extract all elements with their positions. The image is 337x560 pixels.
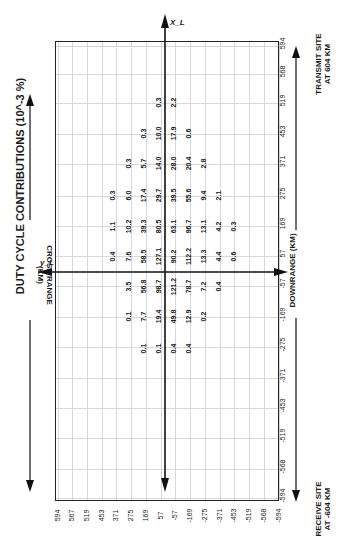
downrange-tick: -519 [279, 424, 286, 448]
data-value: 14.0 [155, 150, 162, 178]
data-value: 0.4 [170, 335, 177, 363]
data-value: 56.8 [140, 273, 147, 301]
data-value: 20.4 [185, 150, 192, 178]
data-value: 7.7 [140, 303, 147, 331]
data-value: 63.1 [170, 213, 177, 241]
crossrange-tick: 519 [83, 504, 90, 528]
data-value: 127.1 [155, 243, 162, 271]
data-value: 90.2 [170, 243, 177, 271]
crossrange-tick: -594 [275, 504, 282, 528]
data-value: 4.4 [215, 243, 222, 271]
downrange-tick: 371 [279, 150, 286, 174]
data-value: 39.5 [170, 182, 177, 210]
data-value: 7.6 [125, 243, 132, 271]
data-value: 0.3 [109, 182, 116, 210]
downrange-tick: 594 [279, 32, 286, 56]
data-value: 0.1 [155, 335, 162, 363]
transmit-site-label: TRANSMIT SITE AT 604 KM [314, 19, 332, 109]
crossrange-tick: 453 [98, 504, 105, 528]
downrange-tick: -453 [279, 394, 286, 418]
data-value: 0.6 [230, 243, 237, 271]
data-value: 12.9 [185, 303, 192, 331]
data-value: 0.1 [125, 303, 132, 331]
data-value: 19.4 [155, 303, 162, 331]
downrange-tick: 275 [279, 182, 286, 206]
data-value: 13.3 [200, 243, 207, 271]
crossrange-tick: 57 [157, 504, 164, 528]
data-value: 49.8 [170, 303, 177, 331]
data-value: 2.1 [215, 182, 222, 210]
downrange-tick: -275 [279, 333, 286, 357]
receive-line1: RECEIVE SITE [314, 464, 323, 554]
data-value: 98.7 [155, 273, 162, 301]
data-value: 17.9 [170, 120, 177, 148]
crossrange-tick: 169 [142, 504, 149, 528]
data-value: 80.5 [155, 213, 162, 241]
downrange-tick: 57 [279, 242, 286, 266]
data-value: 0.3 [230, 213, 237, 241]
data-value: 10.2 [125, 213, 132, 241]
data-value: 13.1 [200, 213, 207, 241]
data-value: 17.4 [140, 182, 147, 210]
data-value: 78.7 [185, 273, 192, 301]
crossrange-label: CROSS RANGE (KM) [36, 240, 54, 310]
crossrange-tick: -453 [230, 504, 237, 528]
downrange-tick: 453 [279, 120, 286, 144]
data-value: 28.0 [170, 150, 177, 178]
crossrange-tick: 371 [112, 504, 119, 528]
transmit-line2: AT 604 KM [323, 19, 332, 109]
downrange-tick: -169 [279, 303, 286, 327]
data-value: 2.2 [170, 89, 177, 117]
data-value: 4.2 [215, 213, 222, 241]
downrange-tick: -371 [279, 364, 286, 388]
receive-line2: AT -604 KM [323, 464, 332, 554]
data-value: 96.7 [185, 213, 192, 241]
data-value: 0.6 [185, 120, 192, 148]
data-value: 1.1 [109, 213, 116, 241]
crossrange-tick: -371 [216, 504, 223, 528]
crossrange-tick: 594 [54, 504, 61, 528]
downrange-tick: -568 [279, 455, 286, 479]
data-value: 10.0 [155, 120, 162, 148]
data-value: 0.3 [140, 120, 147, 148]
data-value: 9.4 [200, 182, 207, 210]
downrange-tick: 169 [279, 212, 286, 236]
crossrange-tick: 275 [127, 504, 134, 528]
transmit-line1: TRANSMIT SITE [314, 19, 323, 109]
downrange-tick: 519 [279, 89, 286, 113]
crossrange-tick: -57 [171, 504, 178, 528]
crossrange-tick: -169 [186, 504, 193, 528]
data-value: 0.4 [185, 335, 192, 363]
data-value: 121.2 [170, 273, 177, 301]
x-axis-label: X_L [170, 18, 185, 27]
downrange-label: DOWNRANGE (KM) [288, 231, 297, 311]
data-value: 7.2 [200, 273, 207, 301]
downrange-tick: 568 [279, 60, 286, 84]
data-value: 58.5 [140, 243, 147, 271]
data-value: 39.3 [140, 213, 147, 241]
downrange-tick: -57 [279, 272, 286, 296]
receive-site-label: RECEIVE SITE AT -604 KM [314, 464, 332, 554]
data-value: 0.3 [125, 150, 132, 178]
data-value: 29.7 [155, 182, 162, 210]
data-value: 0.2 [200, 303, 207, 331]
crossrange-tick: -519 [245, 504, 252, 528]
crossrange-tick: 567 [68, 504, 75, 528]
data-value: 55.6 [185, 182, 192, 210]
data-value: 0.3 [155, 89, 162, 117]
data-value: 0.4 [215, 273, 222, 301]
data-value: 3.5 [125, 273, 132, 301]
crossrange-tick: -275 [201, 504, 208, 528]
data-value: 2.8 [200, 150, 207, 178]
data-value: 5.7 [140, 150, 147, 178]
data-value: 0.1 [140, 335, 147, 363]
data-value: 112.2 [185, 243, 192, 271]
data-value: 6.0 [125, 182, 132, 210]
data-value: 0.4 [109, 243, 116, 271]
crossrange-tick: -568 [260, 504, 267, 528]
